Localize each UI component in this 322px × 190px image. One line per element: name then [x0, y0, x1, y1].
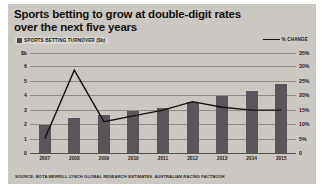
y-axis-tick-right: 5%	[296, 137, 307, 142]
legend-line: % CHANGE	[263, 37, 308, 42]
plot-area: $b 6 5 4 3 2 1 0 35% 30% 25% 20% 15% 10%…	[30, 53, 296, 153]
axis-baseline	[30, 153, 296, 154]
line-series	[30, 53, 296, 153]
page-margin-left	[0, 0, 8, 190]
x-axis-tick: 2007	[30, 156, 60, 161]
y-axis-tick-right: 15%	[296, 108, 309, 113]
y-axis-tick-right: 10%	[296, 122, 309, 127]
chart-title-line-2: over the next five years	[14, 21, 274, 34]
y-axis-tick-left: $b	[21, 51, 30, 56]
legend-bars: SPORTS BETTING TURNOVER ($b)	[15, 37, 108, 44]
x-axis-tick: 2009	[89, 156, 119, 161]
y-axis-tick-right: 25%	[296, 79, 309, 84]
chart-title-line-1: Sports betting to grow at double-digit r…	[14, 8, 274, 21]
percent-change-line	[45, 70, 281, 139]
x-axis-tick: 2014	[237, 156, 267, 161]
x-axis-tick: 2008	[60, 156, 90, 161]
x-axis-tick: 2010	[119, 156, 149, 161]
x-axis-tick: 2011	[148, 156, 178, 161]
page-margin-bottom	[0, 184, 322, 190]
chart-title: Sports betting to grow at double-digit r…	[14, 8, 274, 33]
x-axis-tick: 2012	[178, 156, 208, 161]
y-axis-tick-right: 30%	[296, 64, 309, 69]
chart-card: Sports betting to grow at double-digit r…	[8, 4, 316, 184]
legend-bar-swatch-icon	[17, 38, 22, 43]
page-margin-right	[316, 0, 322, 190]
x-axis-tick: 2015	[266, 156, 296, 161]
y-axis-tick-right: 35%	[296, 51, 309, 56]
legend-line-swatch-icon	[263, 39, 280, 41]
y-axis-tick-right: 20%	[296, 93, 309, 98]
source-note: SOURCE: BOTA MERRILL LYNCH GLOBAL RESEAR…	[15, 174, 225, 179]
x-axis: 200720082009201020112012201320142015	[30, 156, 296, 164]
legend-bars-label: SPORTS BETTING TURNOVER ($b)	[24, 38, 105, 43]
x-axis-tick: 2013	[207, 156, 237, 161]
legend-line-label: % CHANGE	[282, 37, 308, 42]
chart-figure: Sports betting to grow at double-digit r…	[0, 0, 322, 190]
y-axis-tick-right: 0	[296, 151, 302, 156]
